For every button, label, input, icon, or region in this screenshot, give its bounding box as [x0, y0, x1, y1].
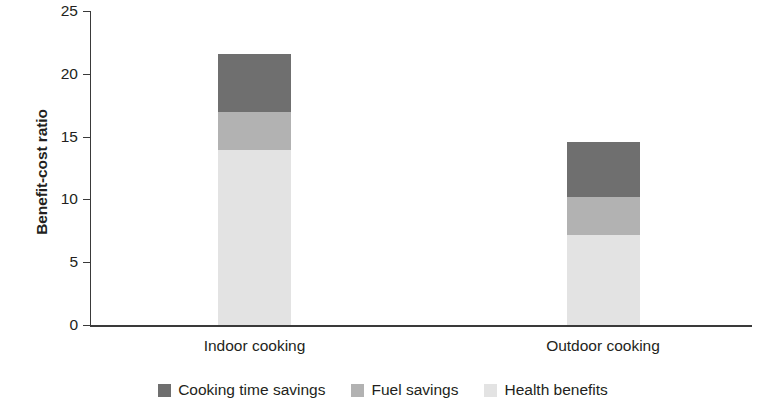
legend-item-label: Cooking time savings [178, 381, 325, 399]
bar-segment-fuel-savings[interactable] [218, 112, 291, 151]
legend: Cooking time savingsFuel savingsHealth b… [0, 381, 766, 399]
legend-swatch-icon [158, 384, 171, 397]
bar-segment-health-benefits[interactable] [567, 235, 640, 325]
bar-segment-cooking-time-savings[interactable] [218, 54, 291, 112]
y-axis-tick-label: 5 [16, 254, 90, 270]
bar-segment-health-benefits[interactable] [218, 150, 291, 325]
y-axis-tick-label: 10 [16, 191, 90, 207]
y-axis-tick-label: 0 [16, 317, 90, 333]
legend-item-label: Fuel savings [371, 381, 458, 399]
legend-item-cooking-time-savings[interactable]: Cooking time savings [158, 381, 325, 399]
x-axis-label-indoor-cooking: Indoor cooking [155, 337, 355, 355]
legend-item-label: Health benefits [504, 381, 607, 399]
legend-item-fuel-savings[interactable]: Fuel savings [351, 381, 458, 399]
x-axis-label-outdoor-cooking: Outdoor cooking [503, 337, 703, 355]
bar-indoor-cooking[interactable] [218, 54, 291, 325]
bar-segment-fuel-savings[interactable] [567, 197, 640, 235]
plot-area [90, 11, 752, 325]
bar-segment-cooking-time-savings[interactable] [567, 142, 640, 197]
chart-container: Benefit-cost ratio 2520151050 Indoor coo… [0, 0, 766, 406]
y-axis-tick-label: 15 [16, 129, 90, 145]
bar-outdoor-cooking[interactable] [567, 142, 640, 325]
y-axis-tick-label: 20 [16, 66, 90, 82]
x-axis-line [90, 325, 752, 327]
y-axis-tick-label: 25 [16, 3, 90, 19]
legend-item-health-benefits[interactable]: Health benefits [484, 381, 607, 399]
legend-swatch-icon [351, 384, 364, 397]
legend-swatch-icon [484, 384, 497, 397]
